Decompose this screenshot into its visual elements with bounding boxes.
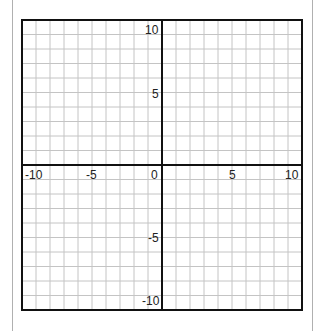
- x-tick-label-neg5: -5: [86, 168, 97, 182]
- y-tick-label-5: 5: [152, 87, 159, 101]
- x-tick-label-5: 5: [229, 168, 236, 182]
- x-tick-label-10: 10: [285, 168, 299, 182]
- coordinate-grid: -10 -5 0 5 10 10 5 -5 -10: [0, 0, 317, 331]
- x-tick-label-neg10: -10: [25, 168, 43, 182]
- origin-label: 0: [151, 168, 158, 182]
- y-tick-label-10: 10: [145, 23, 159, 37]
- y-tick-label-neg10: -10: [142, 294, 160, 308]
- y-tick-label-neg5: -5: [148, 231, 159, 245]
